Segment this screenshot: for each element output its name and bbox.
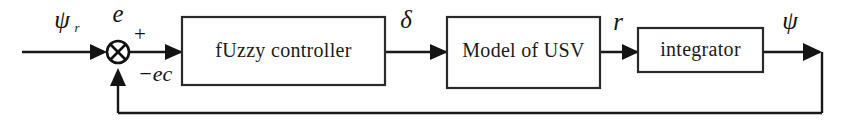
block-model-of-usv-label: Model of USV: [462, 39, 585, 61]
wire-heading-output: [763, 43, 822, 61]
signal-label-heading: ψ: [782, 7, 798, 34]
block-fuzzy-controller-label: fUzzy controller: [215, 39, 351, 62]
wire-reference-input: [22, 44, 107, 60]
arrowhead-controller-input: [165, 44, 183, 60]
block-integrator: integrator: [638, 28, 763, 72]
wire-error-to-controller: [129, 44, 183, 60]
wire-control-to-model: [385, 44, 448, 60]
block-integrator-label: integrator: [660, 38, 741, 61]
arrowhead-feedback-into-sum: [110, 68, 126, 86]
block-model-of-usv: Model of USV: [447, 17, 600, 88]
signal-label-error-rate: −ec: [138, 61, 173, 86]
diagram-canvas: fUzzy controller Model of USV integrator…: [0, 0, 845, 129]
wire-rate-to-integrator: [600, 44, 639, 60]
signal-label-error: e: [112, 0, 123, 27]
signal-label-reference: ψ r: [54, 6, 80, 35]
arrowhead-reference-input: [90, 44, 107, 60]
arrowhead-model-input: [430, 44, 448, 60]
block-fuzzy-controller: fUzzy controller: [182, 17, 385, 85]
arrowhead-integrator-input: [622, 44, 639, 60]
signal-reference-symbol: ψ: [54, 6, 70, 33]
summing-junction-plus-sign: +: [134, 22, 146, 46]
signal-reference-subscript: r: [74, 20, 80, 35]
signal-label-yaw-rate: r: [613, 8, 623, 35]
block-diagram-figure: fUzzy controller Model of USV integrator…: [0, 0, 845, 129]
arrowhead-heading-output: [803, 43, 822, 61]
signal-label-control: δ: [400, 6, 412, 33]
summing-junction: [107, 41, 129, 63]
